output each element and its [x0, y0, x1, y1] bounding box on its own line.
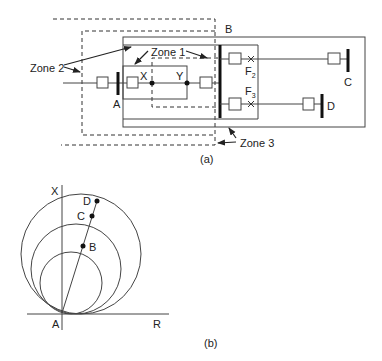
zone2-arrow-2 — [64, 67, 80, 72]
r-axis-label: R — [153, 318, 161, 330]
zone3-arrow-1 — [218, 142, 236, 143]
zone1-arrow-1 — [135, 51, 148, 64]
point-y — [185, 81, 190, 86]
point-b — [81, 244, 86, 249]
fault-f2-label: F2 — [245, 65, 256, 79]
breaker-left-of-a — [97, 77, 108, 88]
bus-d-label: D — [327, 100, 335, 112]
diagram-b: X A R B C D (b) — [21, 185, 217, 349]
point-c-label: C — [77, 210, 85, 222]
point-b-label: B — [89, 241, 96, 253]
breaker-d — [303, 98, 314, 110]
fault-f3-label: F3 — [245, 85, 256, 99]
zone2-arrow-1 — [64, 47, 131, 65]
breaker-right-of-a — [127, 77, 138, 88]
point-d-label: D — [83, 195, 91, 207]
bus-b-label: B — [225, 23, 232, 35]
point-d — [95, 199, 100, 204]
zone1-arrow-2 — [186, 51, 207, 58]
caption-a: (a) — [200, 153, 213, 165]
breaker-b-c — [229, 53, 241, 64]
point-c — [90, 214, 95, 219]
protection-zones-figure: A X Y B F2 C F3 D Zone 2 — [0, 0, 382, 361]
point-x-label: X — [140, 70, 148, 82]
caption-b: (b) — [204, 337, 217, 349]
breaker-b-d — [229, 98, 241, 110]
zone3-label: Zone 3 — [240, 137, 274, 149]
diagram-a: A X Y B F2 C F3 D Zone 2 — [30, 19, 365, 165]
bus-c-label: C — [344, 76, 352, 88]
bus-a-label: A — [113, 98, 121, 110]
point-x — [150, 81, 155, 86]
x-axis-label: X — [51, 185, 59, 197]
origin-label: A — [52, 318, 60, 330]
breaker-left-of-b — [200, 77, 212, 88]
zone1-label: Zone 1 — [151, 46, 185, 58]
zone3-arrow-2 — [229, 128, 236, 138]
breaker-c — [328, 53, 340, 64]
point-y-label: Y — [176, 70, 184, 82]
zone2-label: Zone 2 — [30, 62, 64, 74]
